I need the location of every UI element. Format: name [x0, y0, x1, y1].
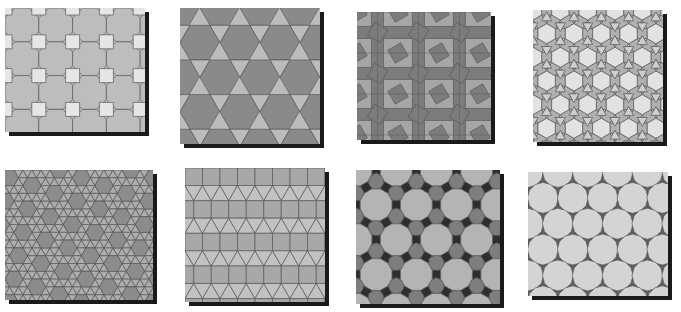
square-tile: [581, 147, 593, 159]
triangle-tile: [172, 295, 181, 303]
dodecagon-tile: [441, 189, 473, 221]
triangle-tile: [542, 0, 552, 8]
triangle-tile: [176, 287, 185, 295]
triangle-tile: [154, 162, 163, 170]
square-tile: [514, 52, 524, 62]
square-tile: [334, 266, 352, 284]
tiling-graphic: [185, 168, 329, 306]
square-tile: [574, 0, 588, 5]
triangle-tile: [0, 279, 5, 287]
triangle-tile: [651, 154, 661, 163]
triangle-tile: [163, 248, 172, 256]
triangle-tile: [172, 303, 181, 311]
triangle-tile: [624, 154, 634, 163]
tile-group: [487, 0, 681, 197]
square-tile: [441, 147, 453, 159]
hexagon-tile: [329, 173, 344, 190]
square-tile: [281, 266, 299, 284]
triangle-tile: [127, 162, 136, 170]
square-tile: [519, 0, 533, 5]
square-tile: [513, 270, 522, 279]
triangle-tile: [596, 154, 606, 163]
hexagon-tile: [570, 150, 585, 167]
triangle-tile: [521, 301, 536, 312]
tile-group: [168, 168, 361, 312]
triangle-tile: [506, 159, 521, 172]
square-tile: [273, 168, 291, 186]
square-tile: [501, 112, 513, 124]
triangle-tile: [176, 232, 185, 240]
square-tile: [588, 157, 602, 171]
hexagon-tile: [675, 24, 681, 44]
triangle-tile: [148, 6, 171, 26]
square-tile: [519, 86, 533, 100]
square-tile: [513, 270, 522, 279]
square-tile: [326, 0, 346, 2]
square-tile: [514, 147, 524, 157]
dodecagon-tile: [481, 189, 513, 221]
hexagon-tile: [329, 243, 344, 260]
hexagon-tile: [329, 220, 344, 237]
triangle-tile: [23, 162, 32, 170]
triangle-tile: [569, 0, 579, 8]
square-tile: [332, 166, 341, 175]
square-tile: [519, 86, 533, 100]
tiling-panel-truncated-trihexagonal-tiling: [356, 170, 504, 308]
triangle-tile: [167, 271, 176, 279]
triangle-tile: [168, 251, 186, 266]
triangle-tile: [230, 0, 250, 8]
square-tile: [99, 1, 113, 15]
hexagon-tile: [497, 95, 514, 115]
hexagon-tile: [497, 0, 514, 20]
square-tile: [308, 168, 326, 186]
triangle-tile: [514, 154, 524, 163]
square-tile: [99, 35, 113, 49]
square-tile: [670, 15, 681, 29]
square-tile: [320, 147, 332, 159]
triangle-tile: [0, 170, 5, 178]
octagon-tile: [0, 0, 5, 8]
square-tile: [542, 147, 552, 157]
dodecagon-tile: [340, 224, 372, 256]
hexagon-tile: [329, 289, 344, 306]
square-tile: [615, 157, 629, 171]
square-tile: [560, 0, 574, 5]
triangle-tile: [167, 240, 176, 248]
square-tile: [421, 147, 433, 159]
hexagon-tile: [510, 208, 525, 225]
square-tile: [99, 136, 113, 150]
square-tile: [449, 0, 469, 2]
square-tile: [569, 147, 579, 157]
triangle-tile: [64, 162, 73, 170]
square-tile: [332, 235, 341, 244]
triangle-tile: [46, 162, 55, 170]
square-tile: [340, 251, 352, 263]
hexagon-tile: [409, 150, 424, 167]
triangle-tile: [551, 146, 566, 159]
triangle-tile: [670, 301, 681, 312]
square-tile: [506, 0, 520, 5]
dodecagon-tile: [677, 286, 681, 312]
octagon-tile: [0, 109, 5, 143]
square-tile: [291, 305, 300, 312]
triangle-tile: [596, 154, 606, 163]
square-tile: [367, 0, 387, 2]
square-tile: [290, 233, 308, 251]
triangle-tile: [610, 146, 625, 159]
square-tile: [220, 233, 238, 251]
triangle-tile: [118, 162, 127, 170]
square-tile: [506, 133, 520, 147]
triangle-tile: [32, 162, 41, 170]
triangle-tile: [596, 0, 606, 8]
square-tile: [238, 168, 256, 186]
triangle-tile: [148, 76, 171, 96]
hexagon-tile: [510, 208, 525, 225]
dodecagon-tile: [461, 154, 493, 186]
square-tile: [441, 147, 453, 159]
octagon-tile: [0, 42, 5, 76]
square-tile: [514, 100, 524, 110]
triangle-tile: [328, 41, 351, 61]
square-tile: [519, 15, 533, 29]
triangle-tile: [514, 12, 524, 21]
triangle-tile: [542, 154, 552, 163]
